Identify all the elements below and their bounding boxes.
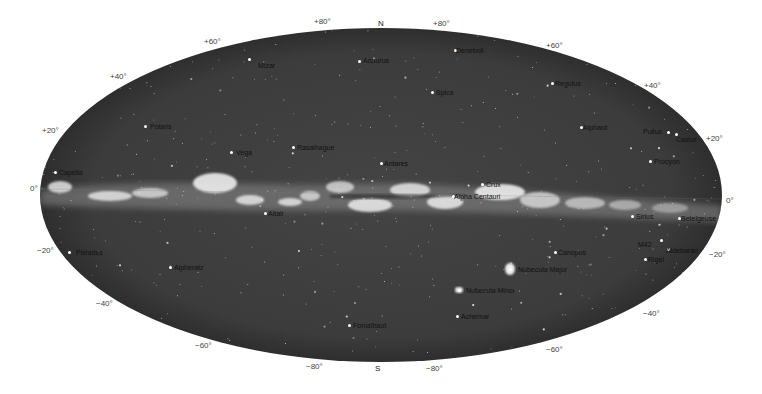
star-marker [660,239,663,242]
star-label: Crux [486,181,501,189]
star-marker [551,82,554,85]
coordinate-label: −40° [643,309,660,318]
coordinate-label: +20° [706,134,723,143]
star-label: Nubecula Major [518,266,567,274]
star-marker [68,251,71,254]
coordinate-label: +60° [204,37,221,46]
star-label: Procyon [654,158,680,166]
star-label: Aldebaran [666,247,698,255]
star-marker [431,91,434,94]
star-label: Nubecula Minor [466,287,515,295]
star-label: Regulus [555,80,581,88]
star-label: Canopus [558,249,586,257]
star-marker [169,266,172,269]
star-label: Achernar [461,313,489,321]
direction-label: S [375,364,380,373]
coordinate-label: −80° [306,362,323,371]
star-marker [292,146,295,149]
star-label: Spica [436,89,454,97]
star-label: Betelgeuse [681,215,716,223]
star-marker [458,289,461,292]
star-marker [230,151,233,154]
star-label: Altair [268,210,284,218]
star-label: Deneboli [456,47,484,55]
star-label: Alpheratz [174,264,204,272]
coordinate-label: +80° [314,17,331,26]
star-label: Mizar [258,62,275,70]
star-label: Rigel [648,256,664,264]
coordinate-label: +80° [433,19,450,28]
star-marker [554,251,557,254]
star-marker [54,171,57,174]
coordinate-label: −20° [709,250,726,259]
coordinate-label: 0° [726,196,734,205]
star-label: Alpha Centauri [454,193,500,201]
star-label: Pollux [643,128,662,136]
star-marker [644,258,647,261]
coordinate-label: −20° [37,246,54,255]
coordinate-label: −60° [195,341,212,350]
star-marker [509,268,512,271]
star-marker [649,160,652,163]
star-label: Rasalhague [297,144,334,152]
star-label: Antares [384,160,408,168]
star-label: Polaris [150,123,171,131]
star-label: Fomalhaut [353,322,386,330]
coordinate-label: −40° [96,299,113,308]
star-marker [481,183,484,186]
star-label: Pleiades [76,249,103,257]
star-marker [667,131,670,134]
star-marker [358,60,361,63]
star-label: Alphard [583,124,607,132]
star-label: Sirius [636,213,654,221]
coordinate-label: +60° [546,41,563,50]
star-label: Arcturus [363,57,389,65]
star-label: Castor [676,136,697,144]
star-marker [631,215,634,218]
star-marker [380,162,383,165]
direction-label: N [378,19,384,28]
star-label: M42 [638,241,652,249]
coordinate-label: 0° [30,184,38,193]
coordinate-label: +40° [110,72,127,81]
coordinate-label: +40° [644,81,661,90]
star-marker [264,212,267,215]
coordinate-label: −80° [426,364,443,373]
star-marker [144,125,147,128]
star-marker [456,315,459,318]
coordinate-label: −60° [546,345,563,354]
star-label: Capella [59,169,83,177]
star-label: Vega [236,149,252,157]
star-marker [348,324,351,327]
star-marker [248,58,251,61]
coordinate-label: +20° [42,126,59,135]
